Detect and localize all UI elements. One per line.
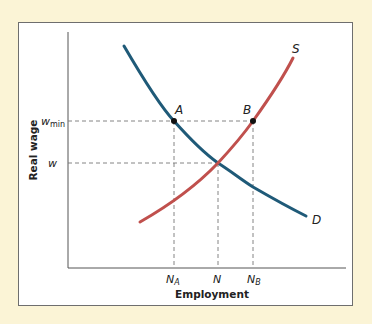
point-b-marker (250, 118, 256, 124)
demand-curve (124, 46, 306, 216)
point-a-label: A (174, 103, 183, 117)
demand-label: D (312, 213, 321, 227)
point-b-label: B (243, 103, 251, 117)
labor-market-chart: A B S D wmin w NA N NB Employment Real w… (0, 0, 372, 324)
y-tick-wmin: wmin (41, 115, 65, 129)
y-axis-title: Real wage (27, 120, 39, 181)
supply-label: S (292, 42, 300, 56)
x-tick-nb: NB (247, 273, 261, 287)
x-axis-title: Employment (175, 288, 249, 300)
y-tick-w: w (48, 157, 57, 170)
point-a-marker (171, 118, 177, 124)
x-tick-na: NA (166, 273, 180, 287)
guide-lines (68, 121, 253, 268)
x-tick-n: N (213, 273, 221, 286)
